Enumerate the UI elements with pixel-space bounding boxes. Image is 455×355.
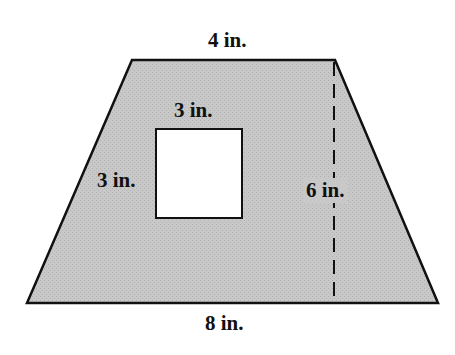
square-side-label: 3 in. [97, 168, 136, 193]
top-base-label: 4 in. [208, 28, 247, 53]
trapezoid-diagram [0, 0, 455, 355]
square-top-label: 3 in. [174, 98, 213, 123]
height-label: 6 in. [304, 178, 347, 203]
bottom-base-label: 8 in. [205, 311, 244, 336]
square-hole [156, 129, 242, 218]
